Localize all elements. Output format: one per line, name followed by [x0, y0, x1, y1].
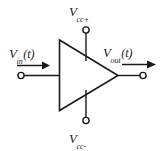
- vcc-positive-terminal-node: [83, 27, 89, 33]
- label-input-argument: (t): [23, 47, 34, 61]
- circuit-diagram: Vin(t) Vout(t) Vcc+ Vcc-: [0, 0, 163, 151]
- label-output-voltage: Vout(t): [103, 44, 133, 63]
- label-supply-negative: Vcc-: [69, 130, 87, 149]
- vcc-negative-terminal-node: [83, 117, 89, 123]
- input-terminal-node: [18, 72, 24, 78]
- label-output-argument: (t): [121, 46, 132, 60]
- label-output-subscript: out: [110, 56, 120, 65]
- label-input-subscript: in: [16, 57, 22, 66]
- output-terminal-node: [140, 72, 146, 78]
- label-supply-positive-subscript: cc+: [76, 15, 89, 24]
- label-supply-positive: Vcc+: [69, 3, 89, 22]
- label-input-voltage: Vin(t): [9, 45, 35, 64]
- label-supply-negative-subscript: cc-: [76, 142, 86, 151]
